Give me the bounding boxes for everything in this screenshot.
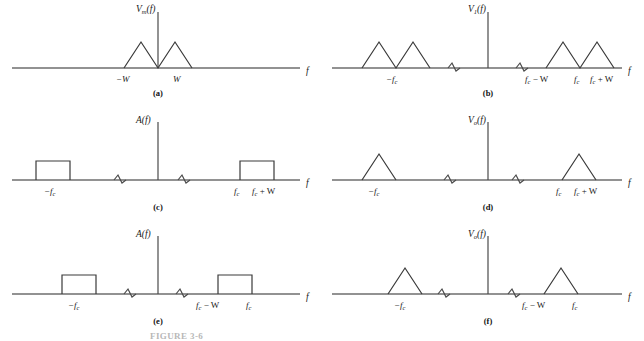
tick-label: fc <box>556 186 562 197</box>
spectrum-triangle-pair-negative <box>362 42 430 68</box>
tick-label: W <box>173 74 182 84</box>
panel-e: A(f) f −fc fc − W fc (e) <box>0 226 322 326</box>
spectrum-triangle-positive <box>562 154 596 180</box>
tick-label: fc + W <box>590 74 614 85</box>
filter-rect-negative <box>36 161 70 180</box>
panel-c: A(f) f −fc fc fc + W (c) <box>0 112 322 212</box>
panel-f: Vo(f) f −fc fc − W fc (f) <box>322 226 644 326</box>
y-axis-label: Vm(f) <box>136 4 155 15</box>
tick-label: −fc <box>68 300 80 311</box>
panel-caption-a: (a) <box>138 88 178 98</box>
spectrum-triangle-negative <box>388 268 422 294</box>
x-axis-label: f <box>306 292 310 302</box>
tick-label: −fc <box>394 300 406 311</box>
axis-break-icon <box>508 289 520 297</box>
spectrum-triangle-negative <box>362 154 396 180</box>
figure-caption: FIGURE 3-6 <box>150 331 203 341</box>
axis-break-icon <box>516 63 528 71</box>
panel-a: Vm(f) f −W W (a) <box>0 0 322 95</box>
tick-label: fc + W <box>574 186 598 197</box>
x-axis-label: f <box>628 178 632 188</box>
axis-break-icon <box>178 175 190 183</box>
filter-rect-positive <box>218 275 252 294</box>
y-axis-label: A(f) <box>135 229 151 240</box>
tick-label: fc <box>574 74 580 85</box>
axis-break-icon <box>176 289 188 297</box>
axis-break-icon <box>114 175 126 183</box>
tick-label: −fc <box>368 186 380 197</box>
spectrum-triangle-positive <box>544 268 578 294</box>
x-axis-label: f <box>306 66 310 76</box>
tick-label: −fc <box>386 74 398 85</box>
panel-caption-b: (b) <box>468 88 508 98</box>
axis-break-icon <box>512 175 524 183</box>
panel-caption-c: (c) <box>138 202 178 212</box>
tick-label: −W <box>116 74 131 84</box>
y-axis-label: Vo(f) <box>468 229 486 240</box>
panel-b: V1(f) f −fc fc − W fc fc + W (b) <box>322 0 644 95</box>
axis-break-icon <box>448 63 460 71</box>
tick-label: fc <box>246 300 252 311</box>
tick-label: fc <box>234 186 240 197</box>
filter-rect-negative <box>62 275 96 294</box>
spectrum-triangle-pair-positive <box>546 42 614 68</box>
axis-break-icon <box>444 175 456 183</box>
x-axis-label: f <box>628 66 632 76</box>
figure-container: Vm(f) f −W W (a) V1(f) f −fc fc − W fc f… <box>0 0 644 341</box>
y-axis-label: Vo(f) <box>468 115 486 126</box>
filter-rect-positive <box>240 161 274 180</box>
axis-break-icon <box>438 289 450 297</box>
panel-caption-d: (d) <box>468 202 508 212</box>
panel-caption-f: (f) <box>468 316 508 326</box>
x-axis-label: f <box>306 178 310 188</box>
tick-label: fc <box>572 300 578 311</box>
axis-break-icon <box>124 289 136 297</box>
x-axis-label: f <box>628 292 632 302</box>
panel-d: Vo(f) f −fc fc fc + W (d) <box>322 112 644 212</box>
tick-label: −fc <box>44 186 56 197</box>
tick-label: fc − W <box>196 300 220 311</box>
tick-label: fc + W <box>252 186 276 197</box>
tick-label: fc − W <box>525 74 549 85</box>
y-axis-label: V1(f) <box>468 4 486 15</box>
tick-label: fc − W <box>522 300 546 311</box>
panel-caption-e: (e) <box>138 316 178 326</box>
y-axis-label: A(f) <box>135 115 151 126</box>
